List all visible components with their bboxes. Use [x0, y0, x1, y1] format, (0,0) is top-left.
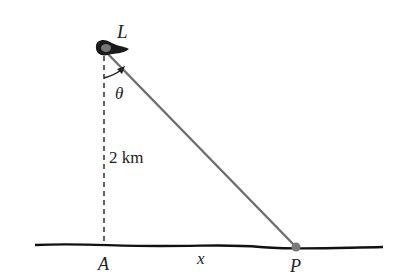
label-distance: 2 km	[109, 148, 143, 167]
label-l: L	[116, 21, 128, 42]
shoreline	[35, 244, 383, 248]
point-p-marker	[292, 243, 301, 252]
lighthouse-diagram: L θ 2 km A x P	[0, 0, 417, 280]
label-p: P	[289, 256, 301, 276]
angle-arc-icon	[104, 66, 125, 78]
label-x: x	[196, 249, 205, 268]
lighthouse-icon	[96, 40, 129, 56]
label-theta: θ	[115, 84, 123, 103]
label-a: A	[97, 254, 110, 274]
